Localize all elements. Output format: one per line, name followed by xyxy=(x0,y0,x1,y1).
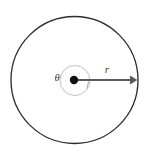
radius-label: r xyxy=(105,63,110,75)
center-dot xyxy=(70,76,78,84)
diagram-canvas: θ r xyxy=(0,0,148,157)
circle-radius-diagram: θ r xyxy=(0,0,148,157)
angle-label: θ xyxy=(54,72,59,83)
